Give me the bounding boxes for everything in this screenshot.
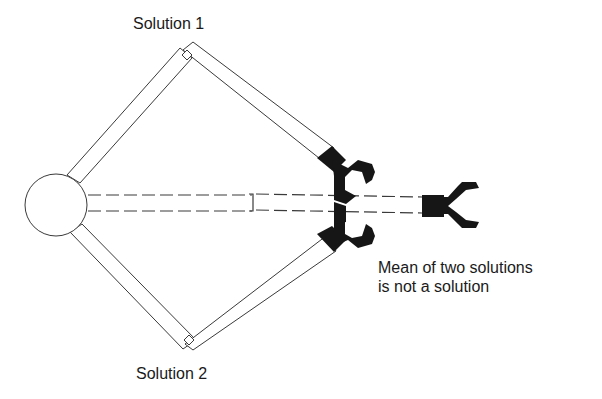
solution-1-label: Solution 1 <box>133 14 204 33</box>
solution-1-gripper-icon <box>317 146 375 204</box>
robot-arm-diagram <box>0 0 602 399</box>
solution-2-arm <box>70 224 336 350</box>
mean-caption-line-2: is not a solution <box>378 277 533 296</box>
solution-1-arm <box>67 42 334 183</box>
solution-1-link-2 <box>183 42 334 162</box>
base-joint-circle <box>25 174 87 236</box>
mean-gripper-icon <box>422 182 479 228</box>
solution-2-label: Solution 2 <box>136 364 207 383</box>
solution-1-link-1 <box>67 48 192 183</box>
solution-2-link-2 <box>185 236 336 350</box>
mean-arm-joint-bracket <box>249 194 253 211</box>
mean-caption: Mean of two solutions is not a solution <box>378 258 533 296</box>
mean-arm <box>88 194 422 213</box>
solution-2-link-1 <box>70 224 196 349</box>
mean-caption-line-1: Mean of two solutions <box>378 258 533 277</box>
